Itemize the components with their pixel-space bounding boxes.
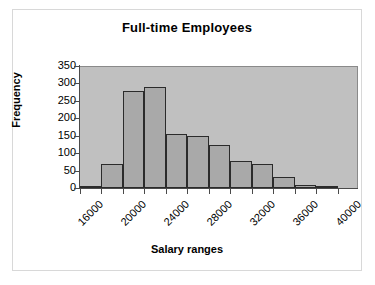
x-tick-mark — [338, 189, 339, 194]
y-tick-mark — [74, 118, 79, 119]
bar — [230, 161, 251, 188]
x-tick-mark — [295, 189, 296, 194]
y-tick-mark — [74, 101, 79, 102]
bar — [123, 91, 144, 188]
y-tick-label: 350 — [42, 60, 76, 71]
x-tick-mark — [80, 189, 81, 194]
bar — [101, 164, 122, 188]
y-tick-mark — [74, 153, 79, 154]
y-tick-label: 0 — [42, 182, 76, 193]
y-tick-label: 200 — [42, 112, 76, 123]
bar — [187, 136, 208, 188]
x-tick-mark — [273, 189, 274, 194]
x-tick-mark — [166, 189, 167, 194]
y-tick-mark — [74, 83, 79, 84]
y-tick-label: 50 — [42, 165, 76, 176]
x-tick-mark — [252, 189, 253, 194]
bar — [295, 185, 316, 188]
x-tick-mark — [187, 189, 188, 194]
bar — [166, 134, 187, 188]
y-axis-title: Frequency — [10, 60, 22, 140]
y-tick-label: 250 — [42, 95, 76, 106]
x-tick-mark — [123, 189, 124, 194]
x-tick-mark — [144, 189, 145, 194]
y-tick-mark — [74, 188, 79, 189]
bar — [144, 87, 165, 188]
bar — [316, 186, 337, 188]
x-tick-mark — [101, 189, 102, 194]
y-tick-label: 150 — [42, 130, 76, 141]
y-tick-mark — [74, 171, 79, 172]
y-tick-mark — [74, 136, 79, 137]
x-tick-mark — [209, 189, 210, 194]
y-tick-mark — [74, 66, 79, 67]
y-tick-label: 300 — [42, 77, 76, 88]
bar — [80, 186, 101, 188]
y-tick-label: 100 — [42, 147, 76, 158]
x-tick-mark — [230, 189, 231, 194]
bar-series — [80, 66, 357, 188]
x-tick-mark — [316, 189, 317, 194]
chart-figure: Full-time Employees Frequency 0501001502… — [0, 0, 375, 285]
bar — [252, 164, 273, 188]
bar — [209, 145, 230, 188]
x-axis-title: Salary ranges — [12, 243, 362, 255]
bar — [273, 177, 294, 188]
